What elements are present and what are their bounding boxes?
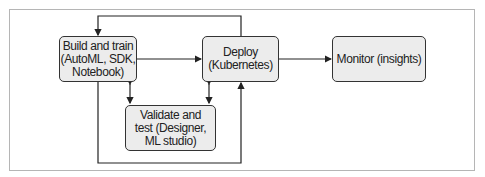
node-label-line: ML studio) <box>135 135 206 148</box>
node-deploy: Deploy (Kubernetes) <box>202 36 279 82</box>
connectors <box>0 0 485 177</box>
node-validate-and-test: Validate and test (Designer, ML studio) <box>125 105 216 151</box>
node-label-line: Validate and <box>135 109 206 122</box>
node-label-line: Build and train <box>61 40 136 53</box>
node-label-line: Notebook) <box>61 66 136 79</box>
node-monitor: Monitor (insights) <box>332 36 426 82</box>
node-build-and-train: Build and train (AutoML, SDK, Notebook) <box>59 36 137 82</box>
arrow-deploy-loop-to-build <box>98 16 241 36</box>
node-label-line: test (Designer, <box>135 122 206 135</box>
node-label-line: Monitor (insights) <box>337 53 422 66</box>
node-label-line: (Kubernetes) <box>208 59 273 72</box>
node-label-line: (AutoML, SDK, <box>61 53 136 66</box>
